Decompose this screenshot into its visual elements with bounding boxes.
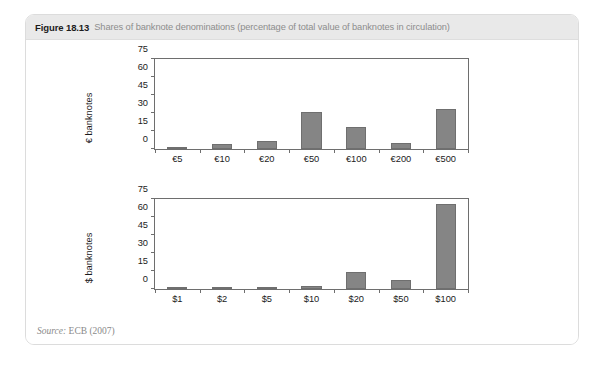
source-note: Source: ECB (2007): [37, 326, 115, 336]
y-tick-label: 0: [143, 134, 148, 144]
bar: [436, 204, 456, 289]
x-tick-label: $100: [423, 294, 468, 312]
source-value: ECB (2007): [66, 326, 115, 336]
euro-y-axis-title: € banknotes: [84, 63, 94, 173]
dollar-x-axis-labels: $1$2$5$10$20$50$100: [155, 294, 468, 312]
x-tick-mark: [289, 289, 290, 293]
bar-slot: [200, 199, 245, 289]
bar-slot: [334, 59, 379, 149]
x-tick-mark: [379, 149, 380, 153]
y-tick-label: 60: [138, 202, 148, 212]
bar-slot: [289, 59, 334, 149]
x-tick-label: €100: [334, 154, 379, 172]
bar-slot: [155, 59, 200, 149]
x-tick-mark: [244, 149, 245, 153]
figure-header: Figure 18.13 Shares of banknote denomina…: [26, 15, 578, 40]
x-tick-label: $5: [244, 294, 289, 312]
x-tick-label: €20: [244, 154, 289, 172]
x-tick-label: €10: [200, 154, 245, 172]
x-tick-mark: [423, 289, 424, 293]
y-tick-label: 0: [143, 274, 148, 284]
bar-slot: [379, 59, 424, 149]
y-tick-label: 45: [138, 220, 148, 230]
x-tick-mark: [468, 289, 469, 293]
x-tick-mark: [334, 149, 335, 153]
bar-slot: [155, 199, 200, 289]
x-tick-label: $50: [379, 294, 424, 312]
x-tick-label: €500: [423, 154, 468, 172]
y-tick-label: 75: [138, 44, 148, 54]
x-tick-label: €5: [155, 154, 200, 172]
x-tick-label: $10: [289, 294, 334, 312]
y-tick-label: 15: [138, 256, 148, 266]
euro-bar-group: [155, 59, 468, 149]
y-tick-label: 30: [138, 98, 148, 108]
x-tick-mark: [200, 289, 201, 293]
bar: [391, 280, 411, 289]
bar-slot: [289, 199, 334, 289]
bar-slot: [379, 199, 424, 289]
x-tick-mark: [289, 149, 290, 153]
y-tick-label: 60: [138, 62, 148, 72]
x-tick-label: $1: [155, 294, 200, 312]
bar-slot: [244, 199, 289, 289]
bar-slot: [200, 59, 245, 149]
bar: [257, 141, 277, 149]
x-tick-label: $20: [334, 294, 379, 312]
figure-body: € banknotes 01530456075 €5€10€20€50€100€…: [26, 40, 578, 345]
x-tick-mark: [155, 149, 156, 153]
y-tick-label: 45: [138, 80, 148, 90]
bar-slot: [423, 199, 468, 289]
bar: [346, 272, 366, 289]
y-tick-label: 30: [138, 238, 148, 248]
x-tick-mark: [155, 289, 156, 293]
bar: [346, 127, 366, 149]
x-tick-label: $2: [200, 294, 245, 312]
x-tick-mark: [334, 289, 335, 293]
bar: [301, 112, 321, 149]
x-tick-mark: [244, 289, 245, 293]
y-tick-label: 75: [138, 184, 148, 194]
x-tick-label: €200: [379, 154, 424, 172]
x-tick-mark: [468, 149, 469, 153]
x-tick-mark: [200, 149, 201, 153]
euro-plot-area: 01530456075 €5€10€20€50€100€200€500: [154, 58, 469, 150]
figure-card: Figure 18.13 Shares of banknote denomina…: [25, 14, 579, 345]
euro-x-axis-labels: €5€10€20€50€100€200€500: [155, 154, 468, 172]
bar-slot: [423, 59, 468, 149]
dollar-y-axis-title: $ banknotes: [84, 203, 94, 313]
euro-banknotes-chart: € banknotes 01530456075 €5€10€20€50€100€…: [26, 52, 578, 187]
x-tick-label: €50: [289, 154, 334, 172]
dollar-banknotes-chart: $ banknotes 01530456075 $1$2$5$10$20$50$…: [26, 192, 578, 327]
bar: [436, 109, 456, 149]
y-tick-label: 15: [138, 116, 148, 126]
figure-number: Figure 18.13: [35, 22, 89, 33]
x-tick-mark: [423, 149, 424, 153]
dollar-plot-area: 01530456075 $1$2$5$10$20$50$100: [154, 198, 469, 290]
x-tick-mark: [379, 289, 380, 293]
bar-slot: [244, 59, 289, 149]
source-label: Source:: [37, 326, 66, 336]
dollar-bar-group: [155, 199, 468, 289]
figure-caption: Shares of banknote denominations (percen…: [94, 22, 450, 32]
bar-slot: [334, 199, 379, 289]
